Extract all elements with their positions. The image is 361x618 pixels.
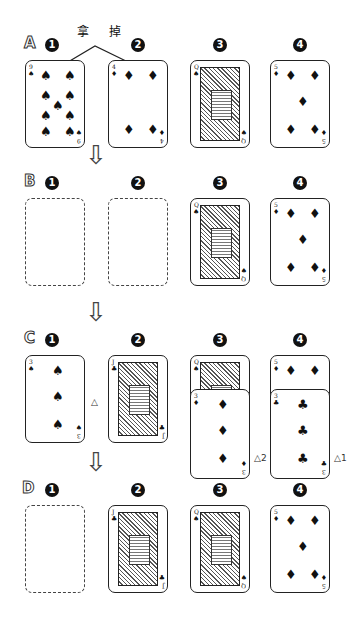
playing-card: 3♦3♦♦♦♦ [190,389,250,479]
suit-pip-icon: ♣ [297,452,309,465]
suit-pip-icon: ♠ [40,89,52,102]
row-label-C: C [24,329,35,347]
suit-pip-icon: ♦ [309,568,321,581]
suit-pip-icon: ♣ [297,398,309,411]
playing-card: Q♠Q♠ [190,198,250,286]
suit-index-icon: ♣ [111,366,117,373]
suit-index-icon: ♣ [321,461,327,468]
playing-card: 3♣3♣♣♣♣ [270,389,330,479]
suit-index-icon: ♦ [321,130,327,137]
slot-number-3: 3 [213,483,227,497]
warning-triangle-icon: △1 [334,453,347,463]
slot-number-1: 1 [45,483,59,497]
suit-index-icon: ♠ [28,366,34,373]
suit-index-icon: ♦ [273,516,279,523]
suit-index-icon: ♠ [76,425,82,432]
row-label-B: B [24,172,35,190]
suit-pip-icon: ♠ [64,125,76,138]
playing-card: J♣J♣ [108,505,168,593]
row-label-D: D [22,479,34,497]
suit-pip-icon: ♦ [285,123,297,136]
suit-index-icon: ♣ [111,516,117,523]
slot-number-2: 2 [131,176,145,190]
card-rank-bottom: J [162,433,164,439]
down-arrow-icon: ⇩ [85,297,107,327]
suit-index-icon: ♦ [159,130,165,137]
suit-pip-icon: ♦ [285,514,297,527]
suit-index-icon: ♠ [241,575,247,582]
playing-card: Q♠Q♠ [190,505,250,593]
slot-number-2: 2 [131,333,145,347]
suit-index-icon: ♠ [241,268,247,275]
card-rank-bottom: 3 [322,469,326,475]
face-card-art [200,512,240,586]
card-rank-bottom: 5 [322,138,326,144]
suit-pip-icon: ♦ [309,123,321,136]
playing-card: Q♠Q♠ [190,60,250,148]
suit-index-icon: ♠ [28,71,34,78]
down-arrow-icon: ⇩ [85,140,107,170]
suit-pip-icon: ♠ [52,99,64,112]
down-arrow-icon: ⇩ [85,447,107,477]
card-rank-bottom: 5 [322,276,326,282]
suit-index-icon: ♣ [273,400,279,407]
slot-number-4: 4 [293,483,307,497]
slot-number-3: 3 [213,333,227,347]
card-rank-bottom: J [162,583,164,589]
suit-index-icon: ♠ [193,71,199,78]
suit-index-icon: ♠ [193,366,199,373]
suit-pip-icon: ♦ [123,69,135,82]
face-card-art [200,205,240,279]
suit-index-icon: ♠ [193,516,199,523]
suit-pip-icon: ♦ [309,69,321,82]
suit-pip-icon: ♦ [309,261,321,274]
suit-pip-icon: ♦ [309,364,321,377]
playing-card: 5♦5♦♦♦♦♦♦ [270,60,330,148]
suit-index-icon: ♠ [76,130,82,137]
slot-number-4: 4 [293,38,307,52]
suit-index-icon: ♠ [193,209,199,216]
suit-pip-icon: ♦ [285,261,297,274]
card-rank-bottom: 3 [242,469,246,475]
slot-number-1: 1 [45,176,59,190]
slot-number-3: 3 [213,176,227,190]
card-rank-bottom: 9 [77,138,81,144]
suit-index-icon: ♦ [273,366,279,373]
card-rank-bottom: Q [241,583,246,589]
suit-pip-icon: ♦ [147,69,159,82]
card-rank-bottom: 4 [160,138,164,144]
suit-pip-icon: ♠ [52,390,64,403]
suit-index-icon: ♦ [111,71,117,78]
suit-pip-icon: ♦ [123,123,135,136]
suit-pip-icon: ♦ [297,95,309,108]
suit-index-icon: ♣ [159,575,165,582]
suit-pip-icon: ♦ [309,207,321,220]
suit-pip-icon: ♠ [64,69,76,82]
suit-pip-icon: ♦ [285,69,297,82]
empty-slot [25,505,85,593]
playing-card: J♣J♣ [108,355,168,443]
suit-index-icon: ♣ [159,425,165,432]
suit-pip-icon: ♦ [147,123,159,136]
suit-pip-icon: ♠ [40,109,52,122]
face-card-art [118,362,158,436]
playing-card: 4♦4♦♦♦♦♦ [108,60,168,148]
card-rank-bottom: 3 [77,433,81,439]
suit-index-icon: ♦ [321,268,327,275]
slot-number-2: 2 [131,483,145,497]
suit-pip-icon: ♦ [285,364,297,377]
suit-pip-icon: ♦ [297,233,309,246]
suit-pip-icon: ♦ [217,452,229,465]
card-rank-bottom: Q [241,276,246,282]
slot-number-2: 2 [131,38,145,52]
face-card-art [118,512,158,586]
suit-pip-icon: ♣ [297,424,309,437]
face-card-art [200,67,240,141]
empty-slot [25,198,85,286]
card-rank-bottom: 5 [322,583,326,589]
suit-pip-icon: ♠ [64,89,76,102]
suit-index-icon: ♦ [241,461,247,468]
remove-label: 拿 掉 [77,22,129,39]
empty-slot [108,198,168,286]
suit-pip-icon: ♦ [297,540,309,553]
